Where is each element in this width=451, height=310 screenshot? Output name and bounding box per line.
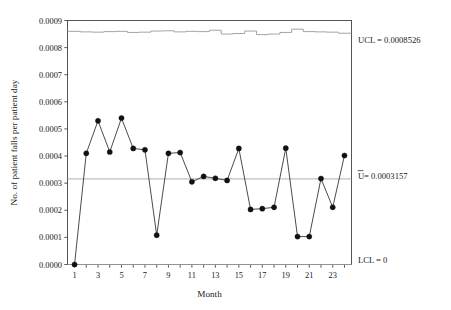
- data-point-marker: [260, 206, 265, 211]
- data-point-marker: [225, 178, 230, 183]
- y-tick-label: 0.0007: [39, 71, 62, 80]
- data-point-marker: [107, 149, 112, 154]
- x-tick-label: 1: [72, 271, 76, 280]
- chart-canvas: 0.00000.00010.00020.00030.00040.00050.00…: [0, 0, 451, 310]
- data-point-marker: [95, 118, 100, 123]
- data-point-marker: [283, 146, 288, 151]
- x-tick-label: 5: [119, 271, 123, 280]
- y-tick-label: 0.0009: [39, 17, 62, 26]
- y-tick-label: 0.0008: [39, 44, 62, 53]
- x-axis-title: Month: [197, 289, 222, 299]
- ucl-annotation-label: UCL = 0.0008526: [358, 35, 421, 45]
- x-tick-label: 7: [143, 271, 147, 280]
- data-point-marker: [236, 146, 241, 151]
- x-tick-label: 21: [305, 271, 313, 280]
- data-point-marker: [189, 179, 194, 184]
- y-axis-title: No. of patient falls per patient day: [9, 79, 19, 205]
- data-point-marker: [295, 234, 300, 239]
- x-tick-label: 15: [235, 271, 243, 280]
- data-point-marker: [72, 262, 77, 267]
- x-tick-label: 3: [96, 271, 100, 280]
- y-tick-label: 0.0002: [39, 206, 62, 215]
- y-tick-label: 0.0005: [39, 125, 62, 134]
- data-point-marker: [307, 234, 312, 239]
- data-point-marker: [154, 233, 159, 238]
- x-tick-label: 23: [329, 271, 337, 280]
- y-tick-label: 0.0000: [39, 261, 62, 270]
- x-tick-label: 17: [258, 271, 266, 280]
- center-annotation-value: = 0.0003157: [364, 171, 408, 181]
- data-point-marker: [342, 153, 347, 158]
- data-point-marker: [84, 151, 89, 156]
- data-point-marker: [318, 176, 323, 181]
- y-tick-label: 0.0006: [39, 98, 62, 107]
- control-chart-figure: 0.00000.00010.00020.00030.00040.00050.00…: [0, 0, 451, 310]
- data-point-marker: [166, 151, 171, 156]
- x-tick-label: 13: [211, 271, 219, 280]
- data-point-marker: [201, 174, 206, 179]
- y-tick-label: 0.0001: [39, 233, 62, 242]
- lcl-annotation-label: LCL = 0: [358, 255, 387, 265]
- x-tick-label: 9: [166, 271, 170, 280]
- x-tick-label: 19: [282, 271, 290, 280]
- data-point-marker: [248, 207, 253, 212]
- y-tick-label: 0.0003: [39, 179, 62, 188]
- data-point-marker: [142, 147, 147, 152]
- x-tick-label: 11: [188, 271, 196, 280]
- data-point-marker: [330, 205, 335, 210]
- y-tick-label: 0.0004: [39, 152, 63, 161]
- data-point-marker: [178, 150, 183, 155]
- data-point-marker: [131, 146, 136, 151]
- data-point-marker: [271, 205, 276, 210]
- center-line-annotation-group: U = 0.0003157: [358, 171, 409, 181]
- data-point-marker: [119, 116, 124, 121]
- data-point-marker: [213, 176, 218, 181]
